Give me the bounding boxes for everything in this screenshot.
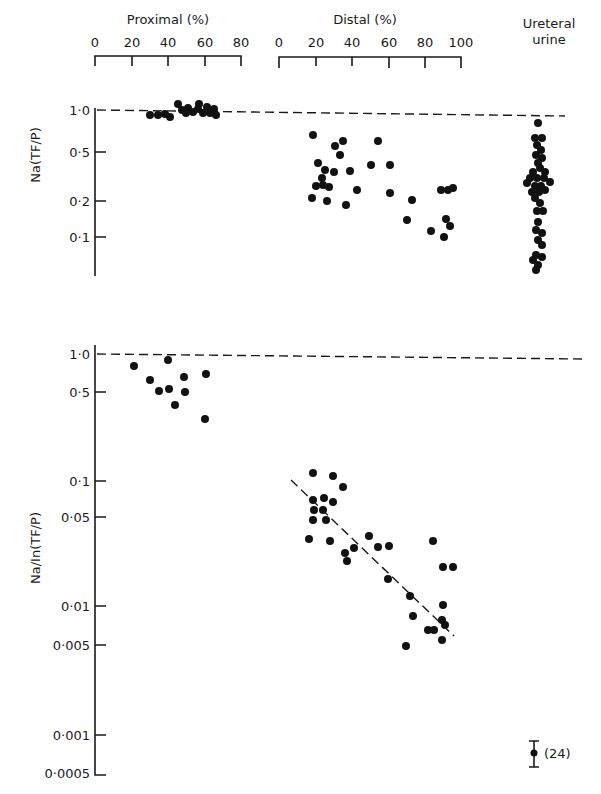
tick-label: 0·05 [61,510,90,525]
ureteral-title-line2: urine [532,32,565,47]
distal-axis [279,57,461,68]
tick-label: 0 [91,35,99,50]
upper-y-label: Na(TF/P) [28,127,43,182]
tick-label: 0·5 [69,385,90,400]
upper-y-axis: 1·0 0·5 0·2 0·1 [69,103,106,276]
upper-distal-points [308,131,457,241]
tick-label: 60 [381,35,398,50]
tick-label: 0·5 [69,145,90,160]
distal-tick-labels: 0 20 40 60 80 100 [275,35,474,50]
ureteral-title-line1: Ureteral [523,16,576,31]
upper-urine-points [523,119,554,274]
tick-label: 0·1 [69,230,90,245]
tick-label: 20 [308,35,325,50]
tick-label: 0·2 [69,194,90,209]
lower-y-label: Na/In(TF/P) [28,512,43,584]
proximal-axis [95,56,241,66]
lower-y-axis: 1·0 0·5 0·1 0·05 0·01 0·005 0·001 0·0005 [45,345,107,781]
tick-label: 0·1 [69,474,90,489]
tick-label: 40 [160,35,177,50]
proximal-tick-labels: 0 20 40 60 80 [91,35,249,50]
tick-label: 1·0 [69,103,90,118]
lower-proximal-points [130,356,210,423]
tick-label: 0·001 [53,728,90,743]
regression-line [291,480,454,636]
tick-label: 0 [275,35,283,50]
tick-label: 60 [197,35,214,50]
tick-label: 0·01 [61,599,90,614]
lower-distal-points [305,469,457,650]
tick-label: 20 [124,35,141,50]
tick-label: 80 [233,35,250,50]
tick-label: 0·0005 [45,766,91,781]
tick-label: 1·0 [69,347,90,362]
sample-size-label: (24) [544,746,571,761]
tick-label: 80 [417,35,434,50]
tick-label: 0·005 [53,638,90,653]
error-bar-annotation: (24) [529,741,571,767]
figure-canvas: Proximal (%) Distal (%) Ureteral urine 0… [0,0,601,794]
proximal-axis-title: Proximal (%) [127,12,209,27]
tick-label: 40 [344,35,361,50]
distal-axis-title: Distal (%) [333,12,397,27]
tick-label: 100 [449,35,474,50]
